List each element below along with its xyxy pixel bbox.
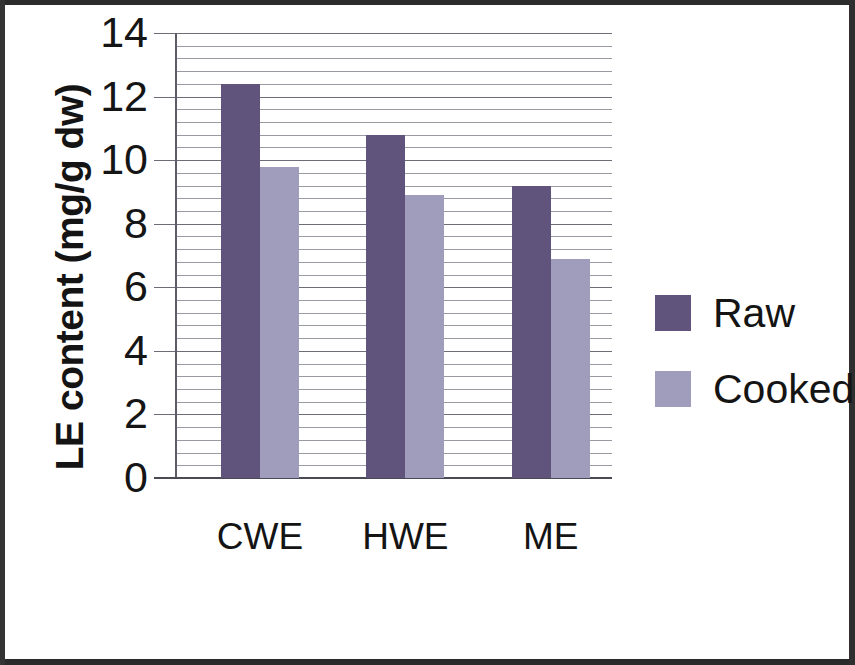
legend: Raw Cooked bbox=[655, 282, 855, 434]
page-border-left bbox=[0, 0, 5, 665]
x-axis-category-hwe: HWE bbox=[335, 518, 475, 555]
legend-label-raw: Raw bbox=[713, 293, 795, 334]
page-border-bottom bbox=[0, 659, 855, 665]
legend-swatch-raw-icon bbox=[655, 295, 691, 331]
bar-me-cooked[interactable] bbox=[551, 259, 590, 478]
y-axis-tick bbox=[154, 414, 176, 415]
page-border-top bbox=[0, 0, 855, 5]
y-axis-tick bbox=[154, 33, 176, 34]
y-axis-tick-labels: 14121086420 bbox=[30, 33, 148, 478]
plot-area bbox=[176, 33, 612, 478]
gridline-major bbox=[176, 33, 612, 34]
y-axis-tick-label: 14 bbox=[48, 11, 148, 54]
gridline-minor bbox=[176, 46, 612, 47]
y-axis-tick bbox=[154, 160, 176, 161]
bar-me-raw[interactable] bbox=[512, 186, 551, 478]
x-axis-category-labels: CWEHWEME bbox=[176, 518, 612, 568]
y-axis-tick-label: 6 bbox=[48, 265, 148, 308]
chart-figure: LE content (mg/g dw) 14121086420 CWEHWEM… bbox=[0, 0, 855, 665]
y-axis-line bbox=[175, 33, 177, 478]
x-axis-category-cwe: CWE bbox=[190, 518, 330, 555]
y-axis-tick-label: 8 bbox=[48, 202, 148, 245]
bar-cwe-cooked[interactable] bbox=[260, 167, 299, 479]
gridline-minor bbox=[176, 71, 612, 72]
legend-item-raw[interactable]: Raw bbox=[655, 282, 855, 344]
bar-hwe-cooked[interactable] bbox=[405, 195, 444, 478]
bar-hwe-raw[interactable] bbox=[366, 135, 405, 478]
y-axis-tick-label: 0 bbox=[48, 456, 148, 499]
y-axis-tick-label: 10 bbox=[48, 138, 148, 181]
gridline-minor bbox=[176, 58, 612, 59]
y-axis-tick bbox=[154, 287, 176, 288]
y-axis-tick bbox=[154, 97, 176, 98]
y-axis-tick-label: 4 bbox=[48, 329, 148, 372]
legend-label-cooked: Cooked bbox=[713, 369, 854, 410]
y-axis-tick-label: 12 bbox=[48, 75, 148, 118]
y-axis-tick bbox=[154, 351, 176, 352]
plot-inner bbox=[176, 33, 612, 478]
legend-item-cooked[interactable]: Cooked bbox=[655, 358, 855, 420]
legend-swatch-cooked-icon bbox=[655, 371, 691, 407]
bar-cwe-raw[interactable] bbox=[221, 84, 260, 478]
y-axis-tick-label: 2 bbox=[48, 392, 148, 435]
x-axis-category-me: ME bbox=[481, 518, 621, 555]
y-axis-tick bbox=[154, 224, 176, 225]
